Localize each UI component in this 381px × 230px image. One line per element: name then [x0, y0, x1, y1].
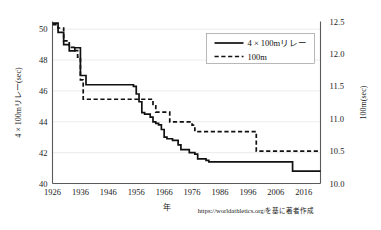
- x-axis-title: 年: [163, 202, 171, 212]
- legend-label-0: 4 × 100mリレー: [248, 38, 308, 48]
- ytick-label-left-1: 42: [39, 148, 48, 158]
- ytick-label-right-1: 10.5: [330, 146, 345, 156]
- ytick-label-right-2: 11.0: [330, 114, 345, 124]
- xtick-label-7: 1996: [239, 187, 256, 197]
- legend-label-1: 100m: [248, 52, 268, 62]
- xtick-label-6: 1986: [212, 187, 229, 197]
- xtick-label-1: 1936: [72, 187, 89, 197]
- ytick-label-right-5: 12.5: [330, 17, 345, 27]
- xtick-label-0: 1926: [44, 187, 61, 197]
- ytick-label-left-4: 48: [39, 55, 48, 65]
- xtick-label-8: 2006: [267, 187, 284, 197]
- xtick-label-5: 1976: [184, 187, 201, 197]
- line-chart: 40424446485010.010.511.011.512.012.51926…: [0, 0, 381, 230]
- xtick-label-4: 1966: [156, 187, 173, 197]
- ytick-label-right-3: 11.5: [330, 81, 345, 91]
- xtick-label-3: 1956: [128, 187, 145, 197]
- xtick-label-2: 1946: [100, 187, 117, 197]
- y-axis-title-left: 4 × 100mリレー(sec): [14, 67, 23, 138]
- source-note: https://worldathletics.org/を基に著者作成: [198, 206, 315, 215]
- chart-figure: 40424446485010.010.511.011.512.012.51926…: [0, 0, 381, 230]
- ytick-label-right-0: 10.0: [330, 179, 345, 189]
- ytick-label-right-4: 12.0: [330, 49, 345, 59]
- ytick-label-left-5: 50: [39, 24, 48, 34]
- ytick-label-left-2: 44: [39, 117, 48, 127]
- xtick-label-9: 2016: [295, 187, 312, 197]
- y-axis-title-right: 100m(sec): [359, 85, 368, 119]
- ytick-label-left-3: 46: [39, 86, 48, 96]
